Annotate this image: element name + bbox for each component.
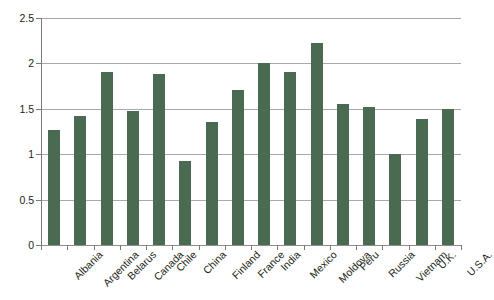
bar xyxy=(101,72,113,245)
y-tick-label: 2.5 xyxy=(19,13,34,23)
x-axis-label: Finland xyxy=(230,249,262,281)
y-tick-label: 0.5 xyxy=(19,195,34,205)
bar xyxy=(442,109,454,245)
bar xyxy=(48,130,60,245)
bar xyxy=(416,119,428,245)
x-axis-labels: AlbaniaArgentinaBelarusCanadaChileChinaF… xyxy=(41,249,473,300)
y-tick-label: 0 xyxy=(28,240,34,250)
bar xyxy=(363,107,375,245)
x-axis-label: Albania xyxy=(72,249,105,282)
bar xyxy=(74,116,86,245)
bar xyxy=(232,90,244,245)
bar xyxy=(284,72,296,245)
bar xyxy=(258,63,270,246)
bars-group xyxy=(41,18,461,245)
bar xyxy=(389,154,401,245)
y-tick-label: 1.5 xyxy=(19,104,34,114)
bar xyxy=(206,122,218,245)
bar xyxy=(337,104,349,245)
bar xyxy=(179,161,191,245)
y-tick-label: 2 xyxy=(28,58,34,68)
bar xyxy=(311,43,323,245)
bar xyxy=(153,74,165,245)
y-tick-label: 1 xyxy=(28,149,34,159)
x-axis-label: U.S.A. xyxy=(465,249,494,278)
bar xyxy=(127,111,139,245)
x-axis-label: China xyxy=(201,249,228,276)
y-axis-labels: 2.5 2 1.5 1 0.5 0 xyxy=(0,0,34,300)
